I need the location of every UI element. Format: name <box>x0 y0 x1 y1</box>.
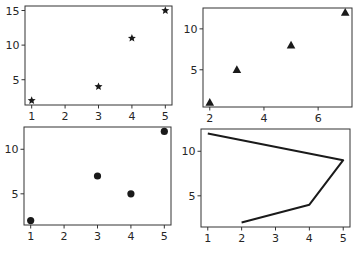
circle-marker <box>127 190 134 197</box>
x-tick-label: 1 <box>204 232 211 245</box>
x-tick-label: 6 <box>315 112 322 125</box>
x-tick-label: 5 <box>161 230 168 243</box>
x-tick-label: 3 <box>94 230 101 243</box>
axes-frame <box>201 129 350 227</box>
y-tick-label: 5 <box>13 74 20 87</box>
x-tick-label: 4 <box>127 230 134 243</box>
x-tick-label: 1 <box>28 110 35 123</box>
y-tick-label: 15 <box>6 5 20 18</box>
y-tick-label: 10 <box>5 143 19 156</box>
circle-marker <box>27 217 34 224</box>
subplot-bottom-left: 12345510 <box>5 127 172 243</box>
y-tick-label: 5 <box>191 64 198 77</box>
y-tick-label: 5 <box>189 190 196 203</box>
subplot-top-left: 1234551015 <box>6 5 173 124</box>
circle-marker <box>94 172 101 179</box>
x-tick-label: 1 <box>27 230 34 243</box>
x-tick-label: 4 <box>260 112 267 125</box>
circle-marker <box>161 128 168 135</box>
x-tick-label: 2 <box>206 112 213 125</box>
y-tick-label: 10 <box>184 23 198 36</box>
x-tick-label: 5 <box>340 232 347 245</box>
axes-frame <box>25 6 172 105</box>
x-tick-label: 2 <box>61 230 68 243</box>
y-tick-label: 10 <box>182 145 196 158</box>
x-tick-label: 3 <box>272 232 279 245</box>
x-tick-label: 4 <box>128 110 135 123</box>
subplot-top-right: 246510 <box>184 8 353 125</box>
x-tick-label: 3 <box>95 110 102 123</box>
x-tick-label: 2 <box>62 110 69 123</box>
y-tick-label: 5 <box>12 188 19 201</box>
x-tick-label: 2 <box>238 232 245 245</box>
subplot-bottom-right: 12345510 <box>182 129 351 245</box>
axes-frame <box>203 8 352 107</box>
figure-canvas: 12345510152465101234551012345510 <box>0 0 356 258</box>
x-tick-label: 5 <box>162 110 169 123</box>
y-tick-label: 10 <box>6 39 20 52</box>
x-tick-label: 4 <box>306 232 313 245</box>
